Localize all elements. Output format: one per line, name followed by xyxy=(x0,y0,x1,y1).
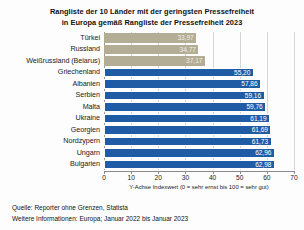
footer-info: Weitere Informationen: Europa; Januar 20… xyxy=(12,214,188,225)
bar[interactable]: 62,98 xyxy=(104,160,275,170)
category-label: Georgien xyxy=(0,126,104,134)
chart-page: Rangliste der 10 Länder mit der geringst… xyxy=(0,0,304,230)
tick-label: 0 xyxy=(102,174,106,181)
bar-track: 57,86 xyxy=(104,78,294,90)
bar-value-label: 62,98 xyxy=(255,161,274,168)
bar-row: Russland34,77 xyxy=(0,44,304,56)
bar-track: 62,98 xyxy=(104,159,294,171)
bar-row: Georgien61,69 xyxy=(0,124,304,136)
bar-value-label: 61,19 xyxy=(250,115,269,122)
bar-row: Nordzypern61,73 xyxy=(0,136,304,148)
bar-value-label: 61,69 xyxy=(252,126,271,133)
bar[interactable]: 61,19 xyxy=(104,114,270,124)
bar[interactable]: 57,86 xyxy=(104,79,261,89)
tick-label: 30 xyxy=(182,174,189,181)
bar-track: 59,16 xyxy=(104,90,294,102)
bar-value-label: 59,76 xyxy=(246,103,265,110)
bar-row: Weißrussland (Belarus)37,17 xyxy=(0,55,304,67)
bar-track: 33,97 xyxy=(104,32,294,44)
bar-track: 62,96 xyxy=(104,147,294,159)
bar-track: 61,19 xyxy=(104,113,294,125)
title-line-1: Rangliste der 10 Länder mit der geringst… xyxy=(16,7,288,18)
bar-value-label: 57,86 xyxy=(241,80,260,87)
category-label: Nordzypern xyxy=(0,137,104,145)
bar-row: Ukraine61,19 xyxy=(0,113,304,125)
category-label: Griechenland xyxy=(0,68,104,76)
plot-area: Türkei33,97Russland34,77Weißrussland (Be… xyxy=(0,32,304,170)
bar-row: Ungarn62,96 xyxy=(0,147,304,159)
bar-value-label: 37,17 xyxy=(186,57,205,64)
bar-row: Griechenland55,20 xyxy=(0,67,304,79)
bar[interactable]: 61,69 xyxy=(104,125,271,135)
category-label: Ungarn xyxy=(0,149,104,157)
category-label: Serbien xyxy=(0,91,104,99)
bar-track: 61,69 xyxy=(104,124,294,136)
category-label: Weißrussland (Belarus) xyxy=(0,57,104,65)
category-label: Bulgarien xyxy=(0,160,104,168)
bar-track: 59,76 xyxy=(104,101,294,113)
bar-row: Bulgarien62,98 xyxy=(0,159,304,171)
bar-row: Malta59,76 xyxy=(0,101,304,113)
page-title: Rangliste der 10 Länder mit der geringst… xyxy=(0,0,304,28)
bar-track: 34,77 xyxy=(104,44,294,56)
bar-value-label: 55,20 xyxy=(234,69,253,76)
bar-track: 61,73 xyxy=(104,136,294,148)
bar[interactable]: 62,96 xyxy=(104,148,275,158)
category-label: Türkei xyxy=(0,34,104,42)
tick-label: 60 xyxy=(263,174,270,181)
footer-source: Quelle: Reporter ohne Grenzen, Statista xyxy=(12,203,188,214)
tick-label: 50 xyxy=(236,174,243,181)
bar-row: Türkei33,97 xyxy=(0,32,304,44)
tick-label: 40 xyxy=(209,174,216,181)
bar[interactable]: 34,77 xyxy=(104,45,198,55)
category-label: Ukraine xyxy=(0,114,104,122)
bar-row: Serbien59,16 xyxy=(0,90,304,102)
bar-value-label: 33,97 xyxy=(177,34,196,41)
bar-list: Türkei33,97Russland34,77Weißrussland (Be… xyxy=(0,32,304,170)
axis-line xyxy=(104,171,294,172)
tick-label: 70 xyxy=(290,174,297,181)
bar[interactable]: 33,97 xyxy=(104,33,196,43)
bar-value-label: 59,16 xyxy=(245,92,264,99)
bar[interactable]: 59,76 xyxy=(104,102,266,112)
bar-value-label: 62,96 xyxy=(255,149,274,156)
bar[interactable]: 37,17 xyxy=(104,56,205,66)
tick-label: 10 xyxy=(127,174,134,181)
bar[interactable]: 55,20 xyxy=(104,68,254,78)
bar[interactable]: 59,16 xyxy=(104,91,265,101)
footer: Quelle: Reporter ohne Grenzen, Statista … xyxy=(12,203,188,224)
bar[interactable]: 61,73 xyxy=(104,137,272,147)
category-label: Albanien xyxy=(0,80,104,88)
category-label: Russland xyxy=(0,45,104,53)
category-label: Malta xyxy=(0,103,104,111)
bar-value-label: 34,77 xyxy=(180,46,199,53)
bar-track: 55,20 xyxy=(104,67,294,79)
bar-value-label: 61,73 xyxy=(252,138,271,145)
title-line-2: in Europa gemäß Rangliste der Pressefrei… xyxy=(16,18,288,29)
bar-row: Albanien57,86 xyxy=(0,78,304,90)
x-axis: 010203040506070 xyxy=(0,171,304,183)
bar-track: 37,17 xyxy=(104,55,294,67)
x-axis-label: Y-Achse Indexwert (0 = sehr ernst bis 10… xyxy=(0,184,294,190)
tick-label: 20 xyxy=(155,174,162,181)
